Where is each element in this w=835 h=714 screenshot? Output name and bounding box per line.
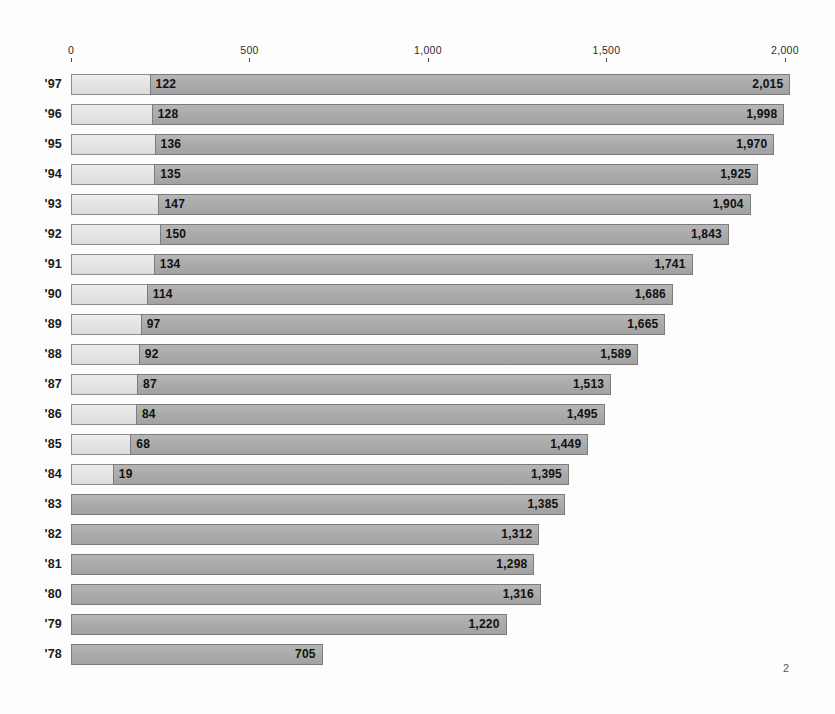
bar-segment-light [71,74,151,95]
bar-segment-dark [147,284,673,305]
bar-track: 1,312 [71,524,539,545]
bar-segment-dark [113,464,569,485]
bar-total-value-label: 1,495 [567,404,598,425]
bar-segment-dark [141,314,666,335]
bar-light-value-label: 122 [156,74,177,95]
bar-total-value-label: 1,449 [550,434,581,455]
bar-track: 921,589 [71,344,638,365]
bar-row: '801,316 [0,582,835,612]
bar-total-value-label: 1,312 [501,524,532,545]
x-axis-tick-label: 0 [36,44,106,56]
row-year-label: '91 [14,255,62,274]
row-year-label: '89 [14,315,62,334]
x-axis-tick-label: 1,500 [572,44,642,56]
bar-track: 1141,686 [71,284,673,305]
bar-total-value-label: 705 [295,644,316,665]
bar-chart: 05001,0001,5002,000 '971222,015'961281,9… [0,0,835,714]
bar-row: '931471,904 [0,192,835,222]
bar-total-value-label: 1,998 [746,104,777,125]
bar-light-value-label: 19 [119,464,133,485]
bar-total-value-label: 1,395 [531,464,562,485]
bar-row: '85681,449 [0,432,835,462]
bar-segment-light [71,374,138,395]
bar-track: 705 [71,644,323,665]
bar-segment-dark [71,644,323,665]
bar-total-value-label: 1,686 [635,284,666,305]
bar-row: '811,298 [0,552,835,582]
row-year-label: '93 [14,195,62,214]
bar-row: '87871,513 [0,372,835,402]
bar-segment-light [71,314,142,335]
bar-row: '791,220 [0,612,835,642]
row-year-label: '96 [14,105,62,124]
bar-segment-dark [136,404,605,425]
bar-total-value-label: 1,589 [600,344,631,365]
row-year-label: '84 [14,465,62,484]
x-axis-tick-mark [249,58,250,62]
bar-segment-dark [150,74,791,95]
bar-total-value-label: 1,665 [627,314,658,335]
x-axis-tick: 1,500 [572,44,642,62]
bar-light-value-label: 97 [147,314,161,335]
bar-track: 1,298 [71,554,534,575]
bar-row: '821,312 [0,522,835,552]
bar-light-value-label: 147 [164,194,185,215]
row-year-label: '82 [14,525,62,544]
bar-segment-dark [130,434,588,455]
row-year-label: '94 [14,165,62,184]
bar-segment-light [71,104,153,125]
x-axis-tick-mark [606,58,607,62]
row-year-label: '79 [14,615,62,634]
bar-segment-dark [71,554,534,575]
x-axis-tick: 500 [215,44,285,62]
x-axis-tick-mark [785,58,786,62]
bar-track: 1351,925 [71,164,758,185]
row-year-label: '97 [14,75,62,94]
bar-segment-dark [71,584,541,605]
bar-row: '971222,015 [0,72,835,102]
bar-segment-dark [71,524,539,545]
bar-segment-light [71,254,155,275]
bar-segment-light [71,284,148,305]
bar-row: '88921,589 [0,342,835,372]
bar-track: 1471,904 [71,194,751,215]
bar-segment-light [71,194,159,215]
bar-segment-dark [71,614,507,635]
bar-total-value-label: 1,316 [503,584,534,605]
bar-track: 871,513 [71,374,611,395]
x-axis-tick-label: 1,000 [393,44,463,56]
x-axis-tick-mark [71,58,72,62]
bar-total-value-label: 1,925 [720,164,751,185]
row-year-label: '85 [14,435,62,454]
x-axis-tick-label: 500 [215,44,285,56]
row-year-label: '92 [14,225,62,244]
bar-track: 1281,998 [71,104,784,125]
bar-light-value-label: 150 [166,224,187,245]
bar-light-value-label: 68 [136,434,150,455]
bar-total-value-label: 1,741 [655,254,686,275]
bar-segment-light [71,434,131,455]
x-axis-tick-label: 2,000 [750,44,820,56]
bar-segment-light [71,404,137,425]
row-year-label: '78 [14,645,62,664]
bar-track: 1,220 [71,614,507,635]
bar-track: 841,495 [71,404,605,425]
bar-segment-dark [160,224,729,245]
bar-row: '921501,843 [0,222,835,252]
bar-track: 681,449 [71,434,588,455]
bar-segment-light [71,164,155,185]
bar-total-value-label: 1,385 [527,494,558,515]
bar-track: 1501,843 [71,224,729,245]
bar-total-value-label: 1,970 [736,134,767,155]
bar-segment-dark [154,164,758,185]
row-year-label: '81 [14,555,62,574]
bar-track: 1361,970 [71,134,774,155]
bar-total-value-label: 1,220 [469,614,500,635]
bar-light-value-label: 136 [161,134,182,155]
bar-segment-dark [137,374,611,395]
x-axis-tick: 0 [36,44,106,62]
row-year-label: '87 [14,375,62,394]
bar-segment-light [71,464,114,485]
bar-segment-dark [154,254,693,275]
bar-light-value-label: 135 [160,164,181,185]
